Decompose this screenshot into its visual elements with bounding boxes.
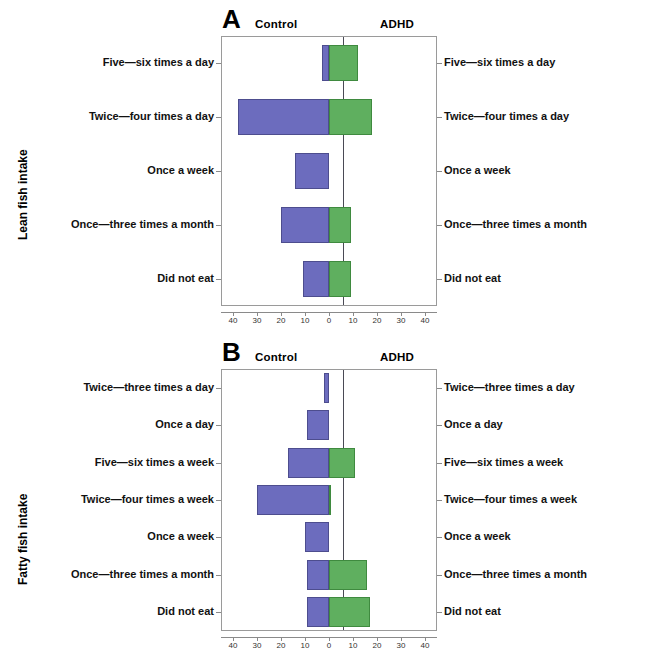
category-label-right: Did not eat: [444, 606, 501, 617]
panel-b-group-label-control: Control: [255, 351, 297, 363]
category-label-left: Twice—three times a day: [0, 382, 214, 393]
panel-b-group-label-adhd: ADHD: [380, 351, 414, 363]
category-label-left: Five—six times a week: [0, 457, 214, 468]
bar-control: [305, 522, 329, 552]
x-axis-tick-label: 0: [317, 642, 341, 650]
category-label-right: Twice—four times a day: [444, 111, 569, 122]
x-axis-tick-label: 40: [221, 317, 245, 325]
panel-letter-b: B: [222, 339, 241, 365]
category-label-right: Once a week: [444, 531, 511, 542]
panel-a: A Control ADHD Lean fish intake Five—six…: [0, 0, 650, 335]
axis-tick-right: [437, 279, 442, 280]
category-label-right: Once—three times a month: [444, 569, 587, 580]
axis-tick-left: [216, 225, 221, 226]
axis-tick-right: [437, 63, 442, 64]
axis-tick-right: [437, 117, 442, 118]
x-axis-tick-label: 30: [389, 642, 413, 650]
x-axis-tick-label: 10: [293, 317, 317, 325]
x-axis-tick-label: 20: [365, 317, 389, 325]
x-axis-tick-label: 40: [413, 642, 437, 650]
panel-a-group-label-control: Control: [255, 18, 297, 30]
axis-tick-right: [437, 425, 442, 426]
axis-tick-left: [216, 500, 221, 501]
x-axis-tick-label: 0: [317, 317, 341, 325]
bar-control: [307, 597, 329, 627]
bar-adhd: [329, 99, 372, 135]
panel-b-zero-line: [343, 370, 344, 630]
axis-tick-right: [437, 612, 442, 613]
x-axis-tick-label: 10: [341, 642, 365, 650]
axis-tick-left: [216, 537, 221, 538]
bar-adhd: [329, 597, 370, 627]
bar-adhd: [329, 448, 355, 478]
bar-adhd: [329, 45, 358, 81]
panel-a-group-label-adhd: ADHD: [380, 18, 414, 30]
category-label-left: Once—three times a month: [0, 569, 214, 580]
bar-adhd: [329, 207, 351, 243]
category-label-left: Did not eat: [0, 606, 214, 617]
x-axis-tick-label: 20: [269, 642, 293, 650]
axis-tick-right: [437, 388, 442, 389]
bar-control: [288, 448, 329, 478]
x-axis-tick-label: 10: [293, 642, 317, 650]
axis-tick-left: [216, 279, 221, 280]
panel-b: B Control ADHD Fatty fish intake Twice—t…: [0, 335, 650, 670]
x-axis-tick-label: 40: [221, 642, 245, 650]
bar-control: [295, 153, 329, 189]
axis-tick-right: [437, 575, 442, 576]
category-label-right: Twice—three times a day: [444, 382, 575, 393]
x-axis-tick-label: 20: [269, 317, 293, 325]
x-axis-tick-label: 40: [413, 317, 437, 325]
category-label-right: Twice—four times a week: [444, 494, 577, 505]
category-label-right: Once—three times a month: [444, 219, 587, 230]
axis-tick-left: [216, 463, 221, 464]
category-label-left: Did not eat: [0, 273, 214, 284]
category-label-left: Twice—four times a day: [0, 111, 214, 122]
axis-tick-right: [437, 463, 442, 464]
bar-control: [303, 261, 329, 297]
panel-letter-a: A: [222, 6, 241, 32]
bar-control: [324, 373, 329, 403]
axis-tick-left: [216, 575, 221, 576]
axis-tick-left: [216, 63, 221, 64]
axis-tick-right: [437, 225, 442, 226]
category-label-left: Once a week: [0, 165, 214, 176]
axis-tick-left: [216, 388, 221, 389]
category-label-left: Once—three times a month: [0, 219, 214, 230]
bar-adhd: [329, 485, 331, 515]
category-label-left: Twice—four times a week: [0, 494, 214, 505]
category-label-right: Five—six times a week: [444, 457, 563, 468]
category-label-right: Once a week: [444, 165, 511, 176]
category-label-right: Did not eat: [444, 273, 501, 284]
bar-control: [281, 207, 329, 243]
category-label-left: Once a week: [0, 531, 214, 542]
axis-tick-left: [216, 612, 221, 613]
axis-tick-left: [216, 171, 221, 172]
bar-adhd: [329, 261, 351, 297]
bar-adhd: [329, 560, 367, 590]
bar-control: [322, 45, 329, 81]
bar-control: [257, 485, 329, 515]
bar-control: [307, 410, 329, 440]
x-axis-tick-label: 30: [245, 317, 269, 325]
axis-tick-left: [216, 117, 221, 118]
category-label-left: Once a day: [0, 419, 214, 430]
axis-tick-right: [437, 500, 442, 501]
axis-tick-right: [437, 537, 442, 538]
x-axis-tick-label: 30: [389, 317, 413, 325]
x-axis-tick-label: 30: [245, 642, 269, 650]
x-axis-tick-label: 20: [365, 642, 389, 650]
axis-tick-right: [437, 171, 442, 172]
category-label-right: Five—six times a day: [444, 57, 555, 68]
category-label-right: Once a day: [444, 419, 503, 430]
category-label-left: Five—six times a day: [0, 57, 214, 68]
bar-control: [238, 99, 329, 135]
x-axis-tick-label: 10: [341, 317, 365, 325]
bar-control: [307, 560, 329, 590]
axis-tick-left: [216, 425, 221, 426]
